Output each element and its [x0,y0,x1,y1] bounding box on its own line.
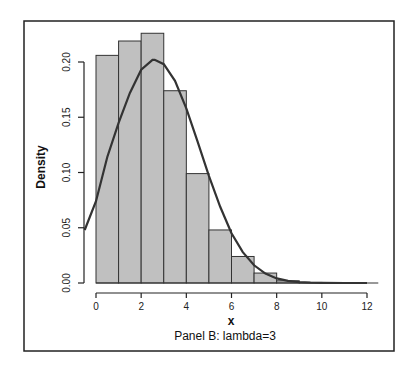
y-tick-label: 0.05 [61,218,72,238]
x-tick-label: 4 [184,301,190,312]
chart-caption: Panel B: lambda=3 [174,329,276,343]
x-tick-label: 10 [316,301,328,312]
histogram-bar [186,174,209,283]
histogram-chart: 0.000.050.100.150.20 024681012 Density x… [0,0,417,372]
histogram-bar [96,55,119,283]
x-tick-label: 8 [274,301,280,312]
histogram-bar [209,230,232,283]
histogram-bar [164,91,187,283]
x-tick-label: 2 [138,301,144,312]
x-tick-label: 6 [229,301,235,312]
x-axis-title: x [228,314,235,328]
y-tick-label: 0.10 [61,162,72,182]
x-tick-label: 0 [93,301,99,312]
y-tick-label: 0.20 [61,52,72,72]
histogram-bar [141,33,164,283]
x-tick-label: 12 [361,301,373,312]
y-axis-title: Density [34,145,48,189]
y-tick-label: 0.15 [61,107,72,127]
y-tick-label: 0.00 [61,273,72,293]
